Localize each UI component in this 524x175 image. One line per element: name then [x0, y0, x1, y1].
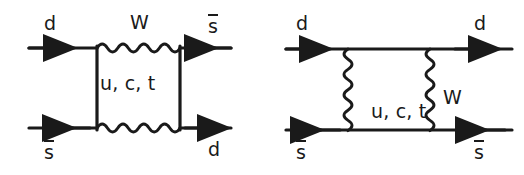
left-diagram-label-top-right-sbar: s [208, 14, 218, 36]
left-diagram-label-bottom-left-sbar: s [44, 140, 54, 162]
right-diagram-label-top-right-d: d [474, 14, 486, 33]
left-diagram-label-bottom-right-d: d [208, 140, 220, 159]
left-diagram-label-top-left-d: d [44, 14, 56, 33]
left-diagram-label-w-boson: W [130, 13, 149, 32]
right-diagram-w-boson-right [426, 49, 434, 131]
left-diagram-label-internal-quarks: u, c, t [100, 74, 156, 93]
right-diagram-label-bottom-right-sbar: s [474, 140, 484, 162]
right-diagram-label-w-boson: W [443, 88, 462, 107]
left-diagram-w-boson-top [97, 44, 180, 52]
right-diagram-w-boson-left [344, 49, 352, 131]
right-diagram-label-bottom-left-sbar: s [296, 140, 306, 162]
left-diagram-w-boson-bottom [97, 124, 180, 132]
right-diagram-label-top-left-d: d [296, 14, 308, 33]
feynman-diagram-figure: d W s u, c, t s d d d u, c, t W s s [0, 0, 524, 175]
right-diagram-label-internal-quarks: u, c, t [371, 102, 427, 121]
